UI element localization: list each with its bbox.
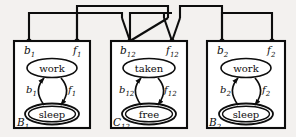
component-B2[interactable]: b2 f2 work sleep b2 f2 B2 (207, 41, 285, 131)
state-label-free: free (139, 109, 159, 120)
state-label-taken: taken (135, 63, 164, 74)
connector-wire-f12-b2 (130, 6, 222, 41)
state-label-sleep1: sleep (39, 109, 66, 120)
state-label-work2: work (233, 63, 259, 74)
component-C12[interactable]: b12 f12 taken free b12 f12 C12 (111, 41, 187, 131)
diagram-canvas: b1 f1 work sleep b1 f1 B1 b12 f12 t (0, 0, 296, 137)
connector-wire-b1-f1 (29, 13, 77, 41)
state-label-work1: work (39, 63, 65, 74)
state-label-sleep2: sleep (233, 109, 260, 120)
connector-wire-b2-f2 (222, 13, 272, 41)
connector-wire-f1-b12 (77, 6, 168, 41)
component-B1[interactable]: b1 f1 work sleep b1 f1 B1 (14, 41, 90, 131)
